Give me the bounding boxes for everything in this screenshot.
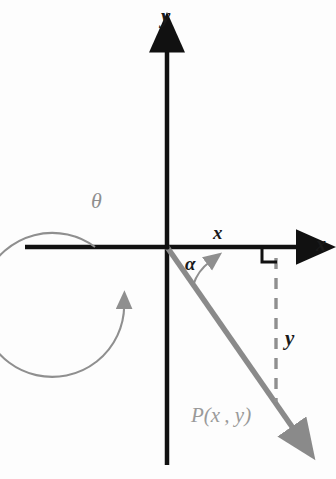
trigonometry-diagram: y x θ α x y P(x , y) [0,0,336,479]
x-axis-label: x [316,234,326,254]
alpha-label: α [185,254,196,273]
theta-arc [0,233,124,377]
point-p-label: P(x , y) [191,405,251,426]
leg-y-label: y [285,328,294,349]
leg-x-label: x [213,223,223,242]
origin-point [164,244,169,249]
diagram-canvas [0,0,336,479]
y-axis-label: y [161,6,170,27]
theta-label: θ [91,190,102,212]
